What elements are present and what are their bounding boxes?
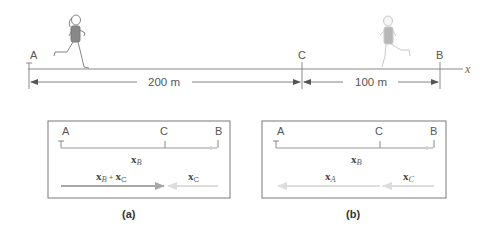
displacement-diagram: x A C B 200 m 100 m A C B xB xB+xC	[0, 0, 489, 231]
track-diagram: x A C B 200 m 100 m	[26, 15, 471, 89]
runner-faded-icon	[380, 16, 410, 67]
runner-icon	[54, 15, 89, 68]
panel-b-point-c: C	[375, 125, 383, 137]
point-c-label: C	[298, 49, 306, 61]
panel-b-point-b: B	[430, 125, 437, 137]
caption-b: (b)	[346, 208, 360, 220]
panel-b-point-a: A	[277, 125, 285, 137]
x-axis-label: x	[464, 62, 471, 76]
point-a-label: A	[30, 49, 38, 61]
distance-ac-label: 200 m	[148, 76, 180, 88]
distance-cb-label: 100 m	[355, 76, 387, 88]
point-b-label: B	[436, 49, 443, 61]
panel-a-point-b: B	[215, 125, 222, 137]
caption-a: (a)	[122, 208, 136, 220]
panel-a-point-c: C	[160, 125, 168, 137]
panel-a-point-a: A	[62, 125, 70, 137]
panel-a: A C B xB xB+xC xC	[48, 121, 230, 198]
panel-b: A C B xB xA xC	[262, 121, 446, 198]
